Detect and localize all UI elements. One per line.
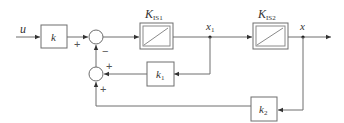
kis2-title: KIS2	[257, 7, 276, 22]
sum1-plus-sign: +	[74, 38, 80, 50]
integrator-block-kis1: KIS1	[140, 7, 173, 49]
input-label: u	[20, 22, 26, 36]
gain-block-k: k	[41, 25, 67, 48]
integrator-block-kis2: KIS2	[253, 7, 288, 49]
signal-x-label: x	[299, 20, 305, 32]
gain-block-k1: k1	[147, 62, 174, 86]
feedback-wire-x1-to-k1	[174, 37, 210, 74]
gain-block-k2: k2	[251, 97, 277, 121]
sum2-plus-bottom-sign: +	[100, 83, 106, 95]
input-signal-u: u	[16, 22, 40, 37]
kis1-title: KIS1	[144, 7, 163, 22]
summing-junction-2	[89, 67, 103, 81]
signal-x1-label: x1	[205, 20, 215, 34]
control-block-diagram: u k + − KIS1 x1 KIS2 x	[0, 0, 344, 123]
sum1-minus-sign: −	[102, 45, 108, 57]
summing-junction-1	[89, 30, 103, 44]
sum2-plus-right-sign: +	[106, 60, 112, 72]
